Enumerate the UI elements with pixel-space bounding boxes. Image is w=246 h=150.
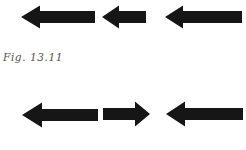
top-row [21, 6, 242, 29]
scanned-figure-page: Fig. 13.11 [0, 0, 246, 150]
arrows-figure [0, 0, 246, 150]
bottom-row [22, 102, 243, 128]
figure-caption: Fig. 13.11 [3, 51, 63, 63]
left-arrow-icon [22, 103, 98, 128]
left-arrow-icon [21, 6, 95, 29]
left-arrow-icon [165, 6, 242, 29]
right-arrow-icon [103, 102, 150, 127]
left-arrow-icon [166, 102, 243, 127]
left-arrow-icon [102, 6, 146, 29]
